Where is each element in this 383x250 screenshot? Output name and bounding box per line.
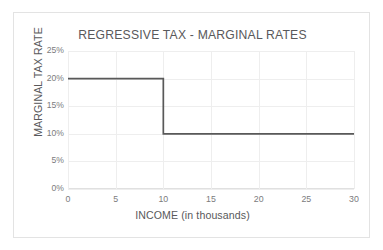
y-axis-tick-labels: 0%5%10%15%20%25%: [28, 51, 64, 189]
x-axis-tick-label: 10: [148, 194, 178, 204]
x-axis-tick-label: 30: [339, 194, 369, 204]
chart-title: REGRESSIVE TAX - MARGINAL RATES: [14, 28, 371, 42]
y-axis-tick-label: 25%: [30, 45, 64, 55]
chart-figure: REGRESSIVE TAX - MARGINAL RATES MARGINAL…: [13, 12, 370, 238]
data-series-line: [68, 79, 354, 134]
x-axis-tick-labels: 051015202530: [68, 194, 354, 208]
y-axis-tick-label: 0%: [30, 183, 64, 193]
y-axis-tick-label: 5%: [30, 155, 64, 165]
x-axis-tick-label: 20: [244, 194, 274, 204]
x-axis-tick-label: 25: [291, 194, 321, 204]
x-axis-tick-label: 5: [101, 194, 131, 204]
gridline-horizontal: [68, 189, 354, 190]
x-axis-tick-label: 0: [53, 194, 83, 204]
gridline-vertical: [354, 51, 355, 189]
y-axis-tick-label: 15%: [30, 100, 64, 110]
x-axis-tick-label: 15: [196, 194, 226, 204]
x-axis-title: INCOME (in thousands): [14, 209, 371, 221]
plot-area: [68, 51, 354, 189]
data-series-layer: [68, 51, 354, 189]
y-axis-tick-label: 10%: [30, 128, 64, 138]
y-axis-tick-label: 20%: [30, 73, 64, 83]
